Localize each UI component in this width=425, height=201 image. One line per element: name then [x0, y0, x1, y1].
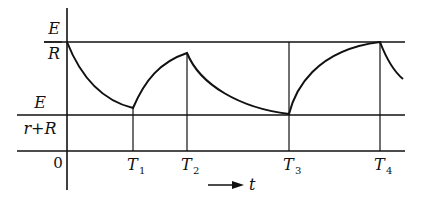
- svg-text:2: 2: [193, 165, 199, 176]
- t2-label: T 2: [181, 155, 199, 176]
- t3-label: T 3: [283, 155, 301, 176]
- svg-text:T: T: [283, 155, 295, 174]
- svg-text:1: 1: [139, 165, 145, 176]
- t4-label: T 4: [374, 155, 392, 176]
- svg-text:r+R: r+R: [23, 119, 56, 138]
- time-arrow: t: [208, 175, 256, 194]
- label-e-over-r: E R: [44, 19, 62, 63]
- svg-text:T: T: [127, 155, 139, 174]
- svg-text:E: E: [47, 19, 60, 38]
- svg-text:3: 3: [295, 165, 301, 176]
- svg-text:T: T: [181, 155, 193, 174]
- svg-text:R: R: [47, 44, 60, 63]
- waveform-curve: [67, 42, 403, 114]
- t1-label: T 1: [127, 155, 145, 176]
- waveform-diagram: E R E r+R 0 T 1 T 2 T 3 T 4 t: [0, 0, 425, 201]
- origin-label: 0: [53, 154, 63, 172]
- svg-text:4: 4: [386, 165, 392, 176]
- svg-text:E: E: [33, 93, 46, 112]
- svg-text:T: T: [374, 155, 386, 174]
- svg-text:t: t: [249, 175, 256, 194]
- arrow-head-icon: [232, 181, 244, 189]
